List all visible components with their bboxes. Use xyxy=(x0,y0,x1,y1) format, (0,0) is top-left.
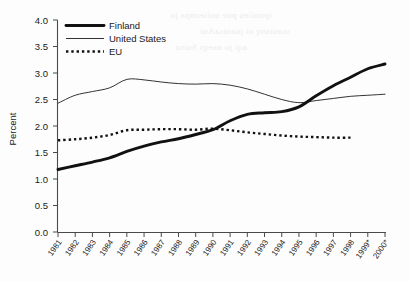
x-tick-label: 2000* xyxy=(371,238,390,260)
x-tick-label: 1982 xyxy=(63,238,81,258)
x-tick-label: 1984 xyxy=(98,238,116,258)
x-tick-label: 1996 xyxy=(304,238,322,258)
x-axis-tick-labels: 1981198219831984198519861987198819891990… xyxy=(46,238,391,261)
x-tick-label: 1989 xyxy=(184,238,202,258)
x-tick-label: 1992 xyxy=(235,238,253,258)
y-tick-label: 4.0 xyxy=(35,15,48,26)
y-tick-label: 0.5 xyxy=(35,200,48,211)
x-tick-label: 1987 xyxy=(149,238,167,258)
x-tick-label: 1997 xyxy=(321,238,339,258)
chart-container: ipuoiieu pue uoiieonpa jo ssauisnq ui ju… xyxy=(0,0,409,282)
legend-label-finland: Finland xyxy=(109,20,140,31)
y-tick-label: 2.0 xyxy=(35,121,48,132)
y-tick-label: 3.0 xyxy=(35,68,48,79)
x-tick-label: 1999* xyxy=(354,238,373,260)
legend: Finland United States EU xyxy=(66,20,166,57)
line-chart: 4.0 3.5 3.0 2.5 2.0 1.5 1.0 0.5 0.0 Perc… xyxy=(0,0,409,282)
x-tick-label: 1981 xyxy=(46,238,64,258)
series-line-eu xyxy=(58,129,351,141)
x-tick-label: 1986 xyxy=(132,238,150,258)
series-line-united-states xyxy=(58,79,385,103)
legend-label-united-states: United States xyxy=(109,33,166,44)
plot-series xyxy=(58,64,385,169)
y-tick-label: 1.0 xyxy=(35,174,48,185)
x-tick-label: 1993 xyxy=(253,238,271,258)
y-axis-label: Percent xyxy=(7,112,18,145)
x-tick-label: 1991 xyxy=(218,238,236,258)
x-tick-label: 1994 xyxy=(270,238,288,258)
y-tick-label: 2.5 xyxy=(35,94,48,105)
y-tick-label: 1.5 xyxy=(35,147,48,158)
x-tick-label: 1988 xyxy=(167,238,185,258)
y-axis-tick-labels: 4.0 3.5 3.0 2.5 2.0 1.5 1.0 0.5 0.0 xyxy=(35,15,48,238)
x-tick-label: 1990 xyxy=(201,238,219,258)
x-tick-label: 1983 xyxy=(80,238,98,258)
x-tick-label: 1985 xyxy=(115,238,133,258)
y-axis-ticks xyxy=(53,20,58,232)
x-tick-label: 1995 xyxy=(287,238,305,258)
legend-label-eu: EU xyxy=(109,46,122,57)
series-line-finland xyxy=(58,64,385,169)
y-tick-label: 0.0 xyxy=(35,227,48,238)
y-tick-label: 3.5 xyxy=(35,41,48,52)
